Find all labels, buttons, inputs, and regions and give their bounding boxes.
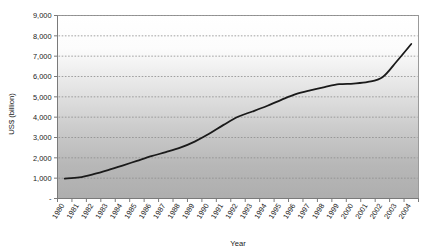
- y-tick-label: 5,000: [33, 93, 52, 102]
- y-tick-label: 9,000: [33, 11, 52, 20]
- y-tick-label: 4,000: [33, 113, 52, 122]
- y-tick-label: 2,000: [33, 154, 52, 163]
- x-axis-title: Year: [230, 239, 246, 248]
- y-tick-label: 3,000: [33, 133, 52, 142]
- chart-canvas: -1,0002,0003,0004,0005,0006,0007,0008,00…: [0, 0, 433, 251]
- y-tick-label: 1,000: [33, 174, 52, 183]
- y-tick-label: 8,000: [33, 32, 52, 41]
- y-tick-label: 6,000: [33, 72, 52, 81]
- y-axis-title: US$ (billion): [7, 93, 16, 135]
- line-chart: -1,0002,0003,0004,0005,0006,0007,0008,00…: [0, 0, 433, 251]
- plot-area: [58, 16, 419, 199]
- y-tick-label: 7,000: [33, 52, 52, 61]
